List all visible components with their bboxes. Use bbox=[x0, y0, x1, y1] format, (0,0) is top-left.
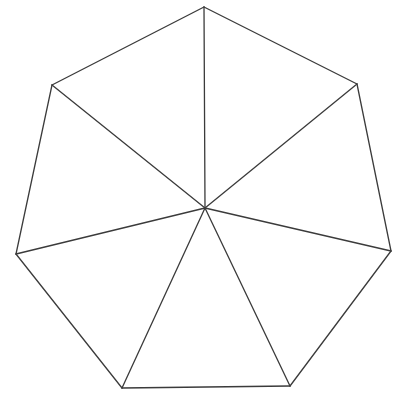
heptagon-figure bbox=[0, 0, 404, 408]
center-vertex bbox=[204, 207, 206, 209]
diagram-canvas bbox=[0, 0, 404, 408]
